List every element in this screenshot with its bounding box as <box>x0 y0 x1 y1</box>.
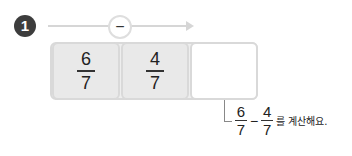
problem-number-badge: 1 <box>14 15 36 37</box>
denominator: 7 <box>263 122 271 137</box>
fraction-cell-2: 4 7 <box>121 42 189 100</box>
note-fraction-b: 4 7 <box>261 104 273 137</box>
fraction-bar <box>77 70 95 72</box>
instruction-text: 를 계산해요. <box>276 113 327 128</box>
fraction-cell-1: 6 7 <box>52 42 120 100</box>
minus-circle-icon: − <box>108 15 132 39</box>
numerator: 6 <box>237 104 245 119</box>
fraction: 4 7 <box>146 50 164 92</box>
numerator: 4 <box>150 50 160 68</box>
instruction-note: 6 7 − 4 7 를 계산해요. <box>235 104 328 137</box>
fraction: 6 7 <box>77 50 95 92</box>
fraction-bar <box>146 70 164 72</box>
minus-sign: − <box>250 113 258 129</box>
connector-line <box>224 100 225 122</box>
connector-line <box>224 121 232 122</box>
denominator: 7 <box>150 74 160 92</box>
denominator: 7 <box>81 74 91 92</box>
numerator: 4 <box>263 104 271 119</box>
denominator: 7 <box>237 122 245 137</box>
answer-input-cell[interactable] <box>190 42 258 100</box>
arrowhead-icon <box>186 21 194 31</box>
note-fraction-a: 6 7 <box>235 104 247 137</box>
numerator: 6 <box>81 50 91 68</box>
